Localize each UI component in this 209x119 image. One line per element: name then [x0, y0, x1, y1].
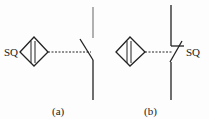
- sensor-diamond-icon-a: [20, 37, 48, 66]
- panel-a: SQ (a): [4, 7, 93, 118]
- switch-blade-a: [80, 39, 93, 60]
- caption-b: (b): [144, 105, 157, 118]
- sq-label-b: SQ: [186, 46, 200, 58]
- switch-blade-b: [170, 41, 182, 62]
- sq-label-a: SQ: [4, 46, 18, 58]
- caption-a: (a): [52, 105, 65, 118]
- panel-b: SQ (b): [116, 5, 200, 118]
- proximity-switch-diagram: SQ (a) SQ (b): [0, 0, 209, 119]
- diagram-canvas: SQ (a) SQ (b): [0, 0, 209, 119]
